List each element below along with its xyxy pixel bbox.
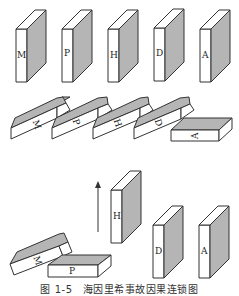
label-a-fallen: A xyxy=(190,132,200,140)
domino-a-fallen: A xyxy=(171,118,232,141)
row-standing: M P H D A xyxy=(16,9,230,82)
label-d-row3: D xyxy=(155,246,162,256)
domino-d-standing: D xyxy=(154,9,184,81)
label-a-row3: A xyxy=(200,246,208,256)
domino-a-standing-2: A xyxy=(199,206,229,278)
label-h: H xyxy=(110,50,118,60)
label-p: P xyxy=(64,48,70,58)
domino-p-fallen-2: P xyxy=(48,255,111,277)
label-m: M xyxy=(17,50,26,60)
label-h-lifted: H xyxy=(113,211,121,221)
row-h-removed: H D A M P xyxy=(10,171,229,278)
label-d: D xyxy=(156,48,163,58)
label-a: A xyxy=(201,50,209,60)
figure-caption: 图 1-5 海因里希事故因果连锁图 xyxy=(0,281,239,296)
domino-h-standing: H xyxy=(108,10,138,82)
domino-p-standing: P xyxy=(62,10,92,82)
row-fallen: M P H D A xyxy=(11,97,232,141)
up-arrow xyxy=(95,181,101,232)
domino-a-standing: A xyxy=(200,10,230,82)
domino-m-standing: M xyxy=(16,10,46,82)
domino-d-standing-2: D xyxy=(153,206,183,278)
label-p-row3: P xyxy=(69,266,75,276)
domino-h-lifted: H xyxy=(111,171,141,243)
